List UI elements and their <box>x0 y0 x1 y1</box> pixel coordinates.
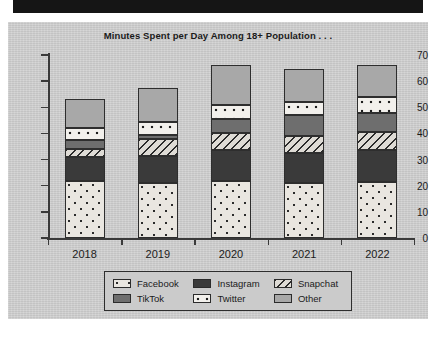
legend-swatch-twitter <box>193 294 211 303</box>
plot-area <box>48 55 414 238</box>
x-axis-tick <box>121 239 122 245</box>
bar-segment-instagram-2020 <box>211 150 251 180</box>
top-black-band <box>13 0 423 13</box>
y-axis-tick <box>41 237 48 238</box>
bar-segment-snapchat-2022 <box>357 132 397 150</box>
bar-2021 <box>284 55 324 238</box>
legend-item-tiktok: TikTok <box>113 293 193 304</box>
bar-segment-twitter-2020 <box>211 105 251 119</box>
bar-segment-tiktok-2021 <box>284 115 324 136</box>
bar-segment-snapchat-2019 <box>138 139 178 156</box>
bar-segment-facebook-2019 <box>138 183 178 238</box>
y-axis-tick <box>41 211 48 212</box>
legend-item-facebook: Facebook <box>113 278 193 289</box>
chart-legend: Facebook Instagram Snapchat TikTok <box>104 271 352 311</box>
bar-segment-other-2022 <box>357 65 397 96</box>
legend-swatch-other <box>274 294 292 303</box>
bar-segment-twitter-2021 <box>284 102 324 115</box>
bar-segment-instagram-2021 <box>284 153 324 183</box>
y-axis-tick <box>41 54 48 55</box>
x-axis-tick <box>48 239 49 245</box>
y-axis-tick <box>41 80 48 81</box>
legend-row: Facebook Instagram Snapchat <box>113 276 345 291</box>
bar-segment-snapchat-2021 <box>284 136 324 153</box>
y-axis-tick <box>41 185 48 186</box>
bar-segment-snapchat-2020 <box>211 133 251 150</box>
bar-segment-facebook-2020 <box>211 181 251 239</box>
legend-label-facebook: Facebook <box>137 278 179 289</box>
bar-2019 <box>138 55 178 238</box>
legend-swatch-facebook <box>113 279 131 288</box>
bar-segment-instagram-2022 <box>357 150 397 181</box>
x-axis-tick <box>194 239 195 245</box>
legend-label-other: Other <box>298 293 322 304</box>
bar-segment-snapchat-2018 <box>65 149 105 157</box>
bar-segment-twitter-2022 <box>357 97 397 113</box>
y-axis-tick <box>41 107 48 108</box>
legend-item-instagram: Instagram <box>193 278 273 289</box>
page-root: Minutes Spent per Day Among 18+ Populati… <box>0 0 436 337</box>
x-axis-tick <box>341 239 342 245</box>
bar-segment-facebook-2021 <box>284 183 324 238</box>
bar-segment-twitter-2018 <box>65 128 105 140</box>
legend-swatch-tiktok <box>113 294 131 303</box>
legend-item-other: Other <box>274 293 345 304</box>
legend-label-tiktok: TikTok <box>137 293 164 304</box>
bar-segment-instagram-2018 <box>65 157 105 181</box>
x-axis-label-2019: 2019 <box>123 248 193 260</box>
bar-segment-other-2019 <box>138 88 178 122</box>
x-axis-label-2018: 2018 <box>50 248 120 260</box>
bar-segment-facebook-2018 <box>65 181 105 239</box>
legend-swatch-snapchat <box>274 279 292 288</box>
legend-item-snapchat: Snapchat <box>274 278 345 289</box>
bar-segment-tiktok-2019 <box>138 135 178 139</box>
chart-title: Minutes Spent per Day Among 18+ Populati… <box>8 30 428 41</box>
chart-panel: Minutes Spent per Day Among 18+ Populati… <box>8 22 428 319</box>
bar-segment-other-2018 <box>65 99 105 128</box>
x-axis-tick <box>414 239 415 245</box>
bar-segment-tiktok-2022 <box>357 113 397 133</box>
bar-2020 <box>211 55 251 238</box>
bar-2018 <box>65 55 105 238</box>
x-axis-line <box>47 238 415 240</box>
legend-label-snapchat: Snapchat <box>298 278 338 289</box>
x-axis-label-2022: 2022 <box>342 248 412 260</box>
legend-item-twitter: Twitter <box>193 293 273 304</box>
bar-segment-other-2021 <box>284 69 324 102</box>
legend-row: TikTok Twitter Other <box>113 291 345 306</box>
bar-segment-facebook-2022 <box>357 182 397 238</box>
white-gap <box>0 13 436 22</box>
legend-label-twitter: Twitter <box>217 293 245 304</box>
bar-2022 <box>357 55 397 238</box>
bar-segment-other-2020 <box>211 65 251 104</box>
legend-label-instagram: Instagram <box>217 278 259 289</box>
bar-segment-twitter-2019 <box>138 122 178 135</box>
bar-segment-tiktok-2020 <box>211 119 251 133</box>
x-axis-tick <box>268 239 269 245</box>
y-axis-tick <box>41 159 48 160</box>
bar-segment-tiktok-2018 <box>65 140 105 149</box>
bar-segment-instagram-2019 <box>138 156 178 183</box>
y-axis-tick <box>41 133 48 134</box>
x-axis-label-2021: 2021 <box>269 248 339 260</box>
legend-swatch-instagram <box>193 279 211 288</box>
x-axis-label-2020: 2020 <box>196 248 266 260</box>
